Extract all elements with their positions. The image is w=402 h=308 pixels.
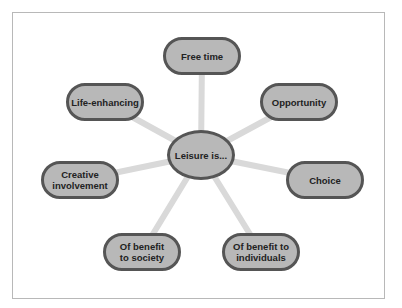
node-of-benefit-to-individuals: Of benefit to individuals — [222, 233, 300, 271]
node-label: Opportunity — [272, 97, 326, 108]
center-node-label: Leisure is... — [175, 150, 227, 161]
node-life-enhancing: Life-enhancing — [66, 83, 144, 121]
node-creative-involvement: Creative involvement — [41, 161, 119, 199]
node-of-benefit-to-society: Of benefit to society — [103, 233, 181, 271]
node-label: Creative involvement — [52, 169, 108, 191]
node-label: Free time — [181, 51, 223, 62]
center-node: Leisure is... — [167, 130, 235, 180]
node-free-time: Free time — [163, 37, 241, 75]
node-label: Life-enhancing — [71, 97, 139, 108]
node-opportunity: Opportunity — [260, 83, 338, 121]
node-label: Of benefit to individuals — [233, 241, 289, 263]
node-label: Of benefit to society — [116, 241, 168, 263]
node-choice: Choice — [286, 161, 364, 199]
node-label: Choice — [309, 175, 341, 186]
